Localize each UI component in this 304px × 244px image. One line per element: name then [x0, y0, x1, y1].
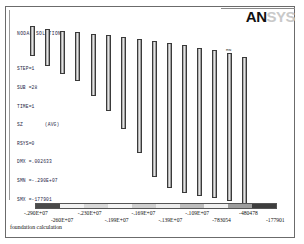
header-component-label: SZ [17, 122, 23, 127]
header-line-smx: SMX =-177901 [17, 197, 61, 203]
colorbar-tick-label-1: -260E+07 [51, 217, 73, 223]
pile-bar-p11 [182, 45, 187, 193]
pile-bar-p13 [212, 50, 217, 198]
colorbar-segment-3 [108, 204, 132, 208]
plot-footer-title: foundation calculation [10, 224, 62, 230]
contour-colorbar [35, 203, 277, 209]
colorbar-segment-2 [84, 204, 108, 208]
colorbar-segment-4 [132, 204, 156, 208]
pile-bar-p4 [75, 32, 80, 81]
pile-bar-p1 [30, 26, 35, 56]
pile-bar-p2 [45, 29, 50, 66]
colorbar-tick-label-5: -.139E+07 [158, 217, 182, 223]
colorbar-tick-label-0: -.290E+07 [24, 210, 48, 216]
colorbar-segment-6 [180, 204, 204, 208]
ansys-logo: ANSYS [246, 9, 295, 25]
colorbar-tick-label-6: -.109E+07 [185, 210, 209, 216]
colorbar-tick-label-8: -480478 [239, 210, 258, 216]
pile-bar-p5 [91, 34, 96, 96]
ansys-plot-window: ANSYS NODAL SOLUTION STEP=1 SUB =28 TIME… [0, 0, 304, 244]
pile-bar-p14 [227, 53, 232, 201]
pile-bar-p7 [121, 37, 126, 129]
colorbar-segment-7 [204, 204, 228, 208]
colorbar-segment-1 [60, 204, 84, 208]
pile-bar-p8 [137, 39, 142, 153]
colorbar-tick-label-3: -.199E+07 [105, 217, 129, 223]
pile-bar-p3 [60, 31, 65, 74]
colorbar-tick-label-7: -783054 [212, 217, 231, 223]
pile-bar-p6 [106, 35, 111, 111]
mn-marker-label: MN [226, 48, 231, 52]
pile-bar-p10 [167, 43, 172, 188]
colorbar-tick-label-9: -177901 [266, 217, 285, 223]
colorbar-segment-8 [228, 204, 252, 208]
model-plot-area: MN [30, 26, 282, 194]
pile-bar-p15 [242, 57, 247, 205]
pile-bar-p12 [197, 48, 202, 196]
graphics-window-edge [9, 10, 10, 200]
colorbar-segment-9 [252, 204, 276, 208]
colorbar-tick-label-4: -.169E+07 [132, 210, 156, 216]
colorbar-tick-label-2: -.230E+07 [78, 210, 102, 216]
pile-bar-p9 [152, 41, 157, 177]
logo-an-text: AN [246, 9, 267, 24]
colorbar-segment-5 [156, 204, 180, 208]
colorbar-segment-0 [36, 204, 60, 208]
logo-sys-text: SYS [266, 9, 295, 24]
